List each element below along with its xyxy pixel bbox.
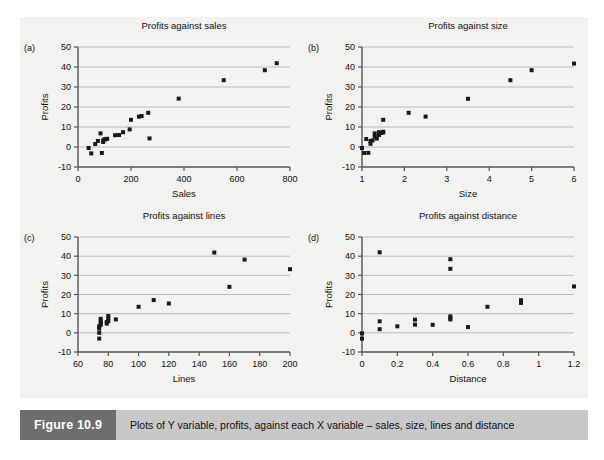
figure-caption-text: Plots of Y variable, profits, against ea… xyxy=(116,410,588,440)
x-tick-label: 3 xyxy=(444,174,449,184)
data-point xyxy=(375,137,379,141)
x-axis-label: Distance xyxy=(450,373,487,384)
y-tick-label: 30 xyxy=(61,271,71,281)
y-tick-label: 20 xyxy=(61,102,71,112)
data-point xyxy=(368,142,372,146)
y-tick-label: -10 xyxy=(342,347,355,357)
x-tick-label: 140 xyxy=(192,359,207,369)
x-tick-label: 2 xyxy=(402,174,407,184)
x-tick-label: 400 xyxy=(176,174,191,184)
data-point xyxy=(519,301,523,305)
x-tick-label: 200 xyxy=(123,174,138,184)
data-point xyxy=(97,337,101,341)
data-point xyxy=(243,258,247,262)
x-tick-label: 160 xyxy=(222,359,237,369)
y-tick-label: 0 xyxy=(66,328,71,338)
data-point xyxy=(362,151,366,155)
data-point xyxy=(413,323,417,327)
x-axis-label: Size xyxy=(459,188,477,199)
data-point xyxy=(378,250,382,254)
y-tick-label: 40 xyxy=(61,62,71,72)
data-point xyxy=(360,146,364,150)
y-tick-label: 50 xyxy=(61,232,71,242)
data-point xyxy=(448,267,452,271)
x-tick-label: 600 xyxy=(229,174,244,184)
data-point xyxy=(373,131,377,135)
data-point xyxy=(96,139,100,143)
data-point xyxy=(530,68,534,72)
chart-title: Profits against distance xyxy=(419,210,517,221)
y-tick-label: -10 xyxy=(342,162,355,172)
figure-container: Profits against sales(a)-100102030405002… xyxy=(0,0,604,460)
y-tick-label: 40 xyxy=(345,251,355,261)
data-point xyxy=(395,324,399,328)
data-point xyxy=(137,305,141,309)
data-point xyxy=(413,318,417,322)
y-tick-label: 50 xyxy=(61,42,71,52)
x-tick-label: 200 xyxy=(282,359,297,369)
data-point xyxy=(152,298,156,302)
x-tick-label: 80 xyxy=(103,359,113,369)
scatter-chart-b: Profits against size(b)-1001020304050123… xyxy=(304,17,588,213)
plot-panel: Profits against sales(a)-100102030405002… xyxy=(20,17,588,398)
panel-label: (d) xyxy=(308,233,319,243)
data-point xyxy=(148,136,152,140)
scatter-chart-a: Profits against sales(a)-100102030405002… xyxy=(20,17,304,213)
data-point xyxy=(117,133,121,137)
data-point xyxy=(466,97,470,101)
data-point xyxy=(407,111,411,115)
data-point xyxy=(97,331,101,335)
y-tick-label: 10 xyxy=(345,309,355,319)
data-point xyxy=(572,284,576,288)
data-point xyxy=(431,323,435,327)
data-point xyxy=(448,317,452,321)
x-tick-label: 120 xyxy=(161,359,176,369)
x-tick-label: 1 xyxy=(359,174,364,184)
y-tick-label: 20 xyxy=(345,290,355,300)
data-point xyxy=(508,78,512,82)
scatter-chart-d: Profits against distance(d)-100102030405… xyxy=(304,207,588,398)
y-tick-label: 0 xyxy=(66,142,71,152)
data-point xyxy=(288,267,292,271)
x-tick-label: 6 xyxy=(571,174,576,184)
scatter-chart-c: Profits against lines(c)-100102030405060… xyxy=(20,207,304,398)
data-point xyxy=(378,319,382,323)
y-tick-label: 50 xyxy=(345,232,355,242)
panel-label: (a) xyxy=(24,43,35,53)
panel-label: (b) xyxy=(308,43,319,53)
data-point xyxy=(381,130,385,134)
y-axis-label: Profits xyxy=(39,281,50,308)
x-tick-label: 0.6 xyxy=(462,359,475,369)
data-point xyxy=(366,151,370,155)
y-tick-label: 50 xyxy=(345,42,355,52)
x-tick-label: 0 xyxy=(75,174,80,184)
data-point xyxy=(222,78,226,82)
y-tick-label: 10 xyxy=(61,122,71,132)
x-tick-label: 4 xyxy=(487,174,492,184)
data-point xyxy=(106,314,110,318)
y-axis-label: Profits xyxy=(323,281,334,308)
data-point xyxy=(177,97,181,101)
data-point xyxy=(360,337,364,341)
data-point xyxy=(378,327,382,331)
y-axis-label: Profits xyxy=(39,93,50,120)
x-tick-label: 60 xyxy=(73,359,83,369)
chart-cell-a: Profits against sales(a)-100102030405002… xyxy=(20,17,304,213)
data-point xyxy=(114,317,118,321)
x-tick-label: 1.2 xyxy=(568,359,581,369)
y-tick-label: 30 xyxy=(345,271,355,281)
y-tick-label: 0 xyxy=(350,328,355,338)
panel-label: (c) xyxy=(24,233,35,243)
y-tick-label: 0 xyxy=(350,142,355,152)
data-point xyxy=(167,302,171,306)
x-tick-label: 0.4 xyxy=(426,359,439,369)
y-tick-label: 20 xyxy=(345,102,355,112)
data-point xyxy=(227,285,231,289)
data-point xyxy=(212,251,216,255)
data-point xyxy=(113,133,117,137)
data-point xyxy=(466,325,470,329)
y-tick-label: 20 xyxy=(61,290,71,300)
x-tick-label: 800 xyxy=(282,174,297,184)
data-point xyxy=(572,62,576,66)
chart-title: Profits against lines xyxy=(143,210,226,221)
